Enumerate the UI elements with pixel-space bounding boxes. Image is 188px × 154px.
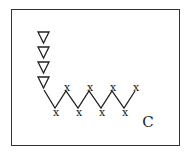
triangle-icon: [38, 47, 49, 58]
x-marks: x x x x x x x x: [53, 81, 140, 119]
triangle-column: [38, 32, 49, 88]
x-mark: x: [64, 81, 71, 94]
x-mark: x: [110, 81, 117, 94]
triangle-icon: [38, 77, 49, 88]
label-c: C: [142, 113, 153, 131]
x-mark: x: [133, 81, 140, 94]
triangle-icon: [38, 32, 49, 43]
x-mark: x: [76, 106, 83, 119]
x-mark: x: [122, 106, 129, 119]
triangle-icon: [38, 62, 49, 73]
x-mark: x: [99, 106, 106, 119]
x-mark: x: [87, 81, 94, 94]
x-mark: x: [53, 106, 60, 119]
crochet-diagram: x x x x x x x x C: [0, 0, 188, 154]
